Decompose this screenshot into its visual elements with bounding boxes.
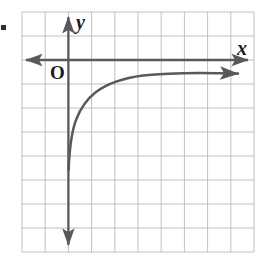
grid-lines bbox=[22, 12, 254, 252]
coordinate-plane bbox=[0, 0, 270, 261]
origin-label: O bbox=[50, 63, 65, 82]
x-axis-label: x bbox=[237, 38, 247, 58]
logarithmic-curve bbox=[69, 73, 238, 170]
y-axis-label: y bbox=[76, 12, 85, 32]
graph-figure: y x O bbox=[0, 0, 270, 261]
